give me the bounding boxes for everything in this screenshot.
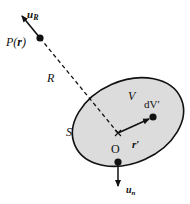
label-r-prime: r′ bbox=[132, 138, 139, 150]
label-P-r: P(r) bbox=[5, 35, 26, 49]
volume-region-ellipse bbox=[58, 61, 190, 183]
label-u-R: uR bbox=[27, 8, 39, 22]
label-surface-S: S bbox=[66, 125, 72, 139]
point-P-dot bbox=[36, 34, 43, 41]
diagram-canvas: uR P(r) R V dV′ r′ O S un bbox=[0, 0, 190, 204]
label-origin-O: O bbox=[111, 142, 120, 156]
label-distance-R: R bbox=[46, 71, 55, 85]
label-dV-prime: dV′ bbox=[144, 98, 160, 110]
volume-element-dot bbox=[149, 113, 156, 120]
label-u-n: un bbox=[126, 184, 136, 197]
